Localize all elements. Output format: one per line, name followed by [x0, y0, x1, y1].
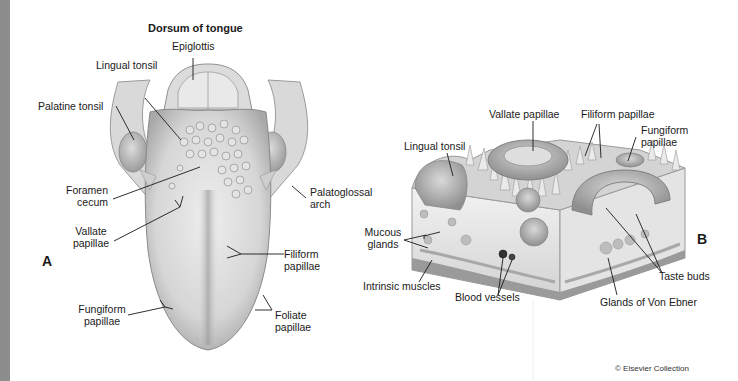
tissue-block-drawing [412, 140, 685, 300]
label-palatoglossal-arch: Palatoglossal arch [310, 186, 372, 210]
label-mucous-glands: Mucous glands [362, 226, 404, 250]
panel-b-letter: B [697, 231, 707, 247]
label-epiglottis: Epiglottis [172, 40, 215, 52]
label-foliate-papillae: Foliate papillae [275, 309, 311, 333]
label-glands-of-von-ebner: Glands of Von Ebner [600, 296, 697, 308]
label-lingual-tonsil-b: Lingual tonsil [404, 140, 465, 152]
label-blood-vessels: Blood vessels [455, 291, 520, 303]
label-fungiform-papillae-b: Fungiform papillae [641, 124, 688, 148]
label-fungiform-papillae-a: Fungiform papillae [74, 303, 130, 327]
panel-a-title: Dorsum of tongue [148, 22, 243, 34]
label-filiform-papillae-a: Filiform papillae [284, 248, 320, 272]
label-intrinsic-muscles: Intrinsic muscles [363, 280, 441, 292]
panel-a-letter: A [42, 253, 52, 269]
tongue-drawing [110, 64, 307, 350]
label-taste-buds: Taste buds [659, 270, 710, 282]
label-lingual-tonsil-a: Lingual tonsil [96, 59, 157, 71]
label-foramen-cecum: Foramen cecum [60, 184, 108, 208]
copyright-credit: © Elsevier Collection [615, 364, 689, 373]
label-vallate-papillae-a: Vallate papillae [68, 225, 114, 249]
label-palatine-tonsil: Palatine tonsil [38, 100, 103, 112]
label-filiform-papillae-b: Filiform papillae [581, 108, 655, 120]
label-vallate-papillae-b: Vallate papillae [489, 108, 559, 120]
